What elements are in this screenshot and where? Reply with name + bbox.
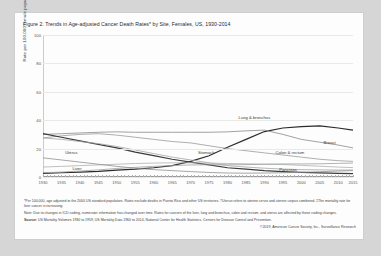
x-axis-minor-tick (128, 175, 129, 177)
chart-container: Rate per 100,000 female population 02040… (23, 31, 357, 195)
series-label: Stomach (198, 150, 215, 155)
x-axis-minor-tick (80, 175, 81, 177)
x-axis-tick-label: 1975 (205, 180, 214, 185)
x-axis-minor-tick (183, 175, 184, 177)
y-axis-tick-label: 20 (36, 146, 41, 151)
x-axis-minor-tick (276, 175, 277, 177)
y-axis-tick-label: 80 (36, 61, 41, 66)
x-axis-minor-tick (102, 175, 103, 177)
x-axis-minor-tick (235, 175, 236, 177)
x-axis-minor-tick (261, 175, 262, 177)
x-axis-minor-tick (353, 175, 354, 177)
x-axis-tick-label: 2010 (334, 180, 343, 185)
x-axis-minor-tick (84, 175, 85, 177)
page-title: Figure 2. Trends in Age-adjusted Cancer … (23, 21, 359, 28)
x-axis-minor-tick (290, 175, 291, 177)
x-axis-minor-tick (43, 175, 44, 177)
x-axis-minor-tick (216, 175, 217, 177)
x-axis-minor-tick (349, 175, 350, 177)
x-axis-tick-label: 2000 (297, 180, 306, 185)
x-axis-minor-tick (139, 175, 140, 177)
y-axis-tick-label: 100 (34, 33, 41, 38)
x-axis-minor-tick (109, 175, 110, 177)
x-axis-minor-tick (76, 175, 77, 177)
x-axis-minor-tick (61, 175, 62, 177)
x-axis-minor-tick (323, 175, 324, 177)
x-axis-minor-tick (132, 175, 133, 177)
footnote-asterisk: *Per 100,000, age adjusted to the 2000 U… (24, 199, 356, 209)
x-axis-minor-tick (146, 175, 147, 177)
x-axis-minor-tick (298, 175, 299, 177)
x-axis-minor-tick (250, 175, 251, 177)
series-label: Lung & bronchus (239, 115, 271, 120)
x-axis-minor-tick (172, 175, 173, 177)
x-axis-minor-tick (95, 175, 96, 177)
x-axis-minor-tick (161, 175, 162, 177)
x-axis-minor-tick (335, 175, 336, 177)
x-axis-minor-tick (279, 175, 280, 177)
x-axis-minor-tick (287, 175, 288, 177)
x-axis-minor-tick (113, 175, 114, 177)
x-axis-minor-tick (187, 175, 188, 177)
x-axis-minor-tick (191, 175, 192, 177)
x-axis-minor-tick (180, 175, 181, 177)
plot-area: 020406080100Lung & bronchusBreastColon &… (43, 35, 353, 177)
copyright-line: ©2019, American Cancer Society, Inc., Su… (24, 225, 356, 230)
x-axis-tick-label: 1940 (75, 180, 84, 185)
source-line: Source: US Mortality Volumes 1930 to 195… (24, 218, 356, 223)
x-axis-minor-tick (327, 175, 328, 177)
x-axis-minor-tick (312, 175, 313, 177)
y-axis-tick-label: 60 (36, 89, 41, 94)
x-axis-minor-tick (209, 175, 210, 177)
x-axis-minor-tick (65, 175, 66, 177)
grid-line (43, 92, 353, 93)
x-axis-tick-label: 1985 (242, 180, 251, 185)
x-axis-tick-label: 2005 (315, 180, 324, 185)
x-axis-minor-tick (143, 175, 144, 177)
x-axis-minor-tick (264, 175, 265, 177)
series-lines (43, 35, 353, 177)
x-axis-tick-label: 1970 (186, 180, 195, 185)
x-axis-minor-tick (346, 175, 347, 177)
x-axis-minor-tick (73, 175, 74, 177)
grid-line (43, 35, 353, 36)
x-axis-minor-tick (301, 175, 302, 177)
x-axis-minor-tick (121, 175, 122, 177)
x-axis-minor-tick (342, 175, 343, 177)
x-axis-minor-tick (228, 175, 229, 177)
x-axis-minor-tick (316, 175, 317, 177)
series-label: Liver (73, 166, 82, 171)
x-axis-tick-label: 1945 (94, 180, 103, 185)
x-axis-minor-tick (124, 175, 125, 177)
x-axis-minor-tick (331, 175, 332, 177)
x-axis-tick-label: 1965 (168, 180, 177, 185)
x-axis-minor-tick (157, 175, 158, 177)
x-axis-minor-tick (305, 175, 306, 177)
x-axis-minor-tick (253, 175, 254, 177)
x-axis-minor-tick (165, 175, 166, 177)
x-axis-minor-tick (309, 175, 310, 177)
x-axis-minor-tick (294, 175, 295, 177)
x-axis-tick-label: 1995 (278, 180, 287, 185)
series-line (43, 134, 353, 162)
x-axis-minor-tick (224, 175, 225, 177)
x-axis-minor-tick (198, 175, 199, 177)
x-axis-minor-tick (47, 175, 48, 177)
x-axis-minor-tick (91, 175, 92, 177)
series-label: Colon & rectum (276, 150, 305, 155)
x-axis-tick-label: 1935 (57, 180, 66, 185)
x-axis-minor-tick (176, 175, 177, 177)
x-axis-minor-tick (194, 175, 195, 177)
x-axis-minor-tick (272, 175, 273, 177)
x-axis-minor-tick (106, 175, 107, 177)
series-label: Breast (323, 140, 335, 145)
x-axis-minor-tick (150, 175, 151, 177)
x-axis-minor-tick (69, 175, 70, 177)
x-axis-tick-label: 1950 (112, 180, 121, 185)
x-axis-tick-label: 1990 (260, 180, 269, 185)
x-axis-minor-tick (117, 175, 118, 177)
x-axis-minor-tick (50, 175, 51, 177)
x-axis-minor-tick (220, 175, 221, 177)
x-axis-minor-tick (231, 175, 232, 177)
series-line (43, 130, 353, 148)
